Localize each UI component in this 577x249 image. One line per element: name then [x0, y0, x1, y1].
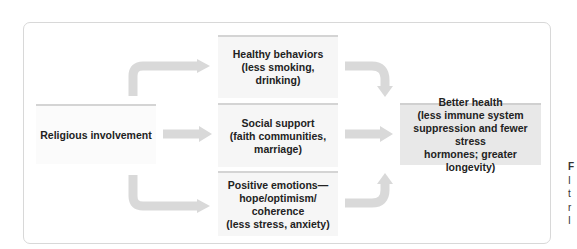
arrowhead-positive: [197, 199, 210, 213]
better-health-detail-1: (less immune system: [400, 109, 541, 122]
social-support-detail-2: marriage): [230, 143, 326, 156]
positive-emotions-detail-1: hope/optimism/: [226, 192, 329, 205]
social-support-box: Social support (faith communities, marri…: [218, 103, 338, 167]
arrowhead-outcome-bottom: [377, 173, 393, 184]
better-health-detail-3: hormones; greater longevity): [400, 148, 541, 174]
arrowhead-healthy: [197, 59, 210, 73]
figure-caption-fragment: F I t r I: [568, 160, 577, 228]
social-support-title: Social support: [230, 117, 326, 130]
positive-emotions-detail-2: coherence: [226, 205, 329, 218]
arrow-to-positive-emotions: [133, 175, 197, 206]
healthy-behaviors-detail: (less smoking, drinking): [218, 61, 338, 87]
arrow-positive-to-outcome: [345, 183, 385, 203]
arrowhead-social: [199, 126, 212, 142]
healthy-behaviors-box: Healthy behaviors (less smoking, drinkin…: [218, 35, 338, 98]
better-health-title: Better health: [400, 96, 541, 109]
arrow-healthy-to-outcome: [345, 66, 385, 86]
better-health-detail-2: suppression and fewer stress: [400, 122, 541, 148]
healthy-behaviors-title: Healthy behaviors: [218, 48, 338, 61]
social-support-detail-1: (faith communities,: [230, 130, 326, 143]
positive-emotions-detail-3: (less stress, anxiety): [226, 218, 329, 231]
arrow-to-healthy-behaviors: [133, 66, 197, 96]
arrowhead-outcome-mid: [380, 126, 393, 142]
religious-involvement-box: Religious involvement: [36, 104, 156, 164]
religious-involvement-label: Religious involvement: [40, 129, 151, 142]
arrowhead-outcome-top: [377, 86, 393, 97]
positive-emotions-title: Positive emotions—: [226, 179, 329, 192]
better-health-box: Better health (less immune system suppre…: [400, 103, 541, 165]
positive-emotions-box: Positive emotions— hope/optimism/ cohere…: [218, 171, 338, 236]
